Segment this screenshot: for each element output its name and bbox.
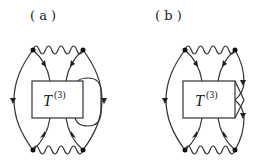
arrow-tr-a (70, 60, 75, 67)
vertex-tl-b (183, 48, 188, 53)
operator-superscript-a: (3) (54, 89, 66, 101)
crossing-line-lower-b (235, 100, 244, 150)
panel-b: ( b ) T (3) (155, 8, 246, 154)
diagram-canvas: ( a ) T (3) ( b ) (0, 0, 253, 164)
vertex-bl-a (31, 148, 36, 153)
wavy-line-bottom-a (33, 146, 83, 154)
arrow-tl-a (41, 60, 46, 67)
panel-a-label: ( a ) (30, 8, 56, 23)
arrow-tl-b (193, 60, 198, 67)
outer-arc-left-b (166, 50, 185, 150)
vertex-tl-a (31, 48, 36, 53)
inner-line-br-a (66, 118, 83, 150)
inner-line-bl-b (185, 118, 202, 150)
wavy-line-bottom-b (185, 146, 235, 154)
inner-line-tr-a (66, 50, 83, 81)
arrow-right-lower-b (240, 113, 246, 119)
vertex-tr-a (81, 48, 86, 53)
operator-superscript-b: (3) (206, 89, 218, 101)
operator-symbol-b: T (195, 92, 205, 109)
arrow-left-a (10, 98, 16, 104)
vertex-br-a (81, 148, 86, 153)
crossing-line-upper-b (235, 50, 244, 100)
vertex-br-b (233, 148, 238, 153)
inner-line-tr-b (218, 50, 235, 81)
outer-arc-left-a (14, 50, 33, 150)
panel-a: ( a ) T (3) (10, 8, 107, 154)
arrow-tr-b (222, 60, 227, 67)
vertex-tr-b (233, 48, 238, 53)
wavy-line-top-b (185, 46, 235, 54)
panel-b-label: ( b ) (155, 8, 182, 23)
arrow-right-upper-b (240, 80, 246, 86)
operator-symbol-a: T (43, 92, 53, 109)
vertex-bl-b (183, 148, 188, 153)
inner-line-br-b (218, 118, 235, 150)
wavy-line-top-a (33, 46, 83, 54)
inner-line-tl-a (33, 50, 50, 81)
inner-line-bl-a (33, 118, 50, 150)
arrow-left-b (162, 98, 168, 104)
outer-arc-right-a (83, 50, 102, 150)
inner-line-tl-b (185, 50, 202, 81)
